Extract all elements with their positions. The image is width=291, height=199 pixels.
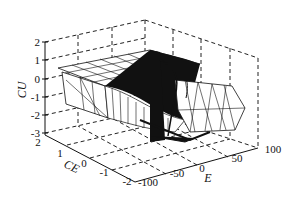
svg-text:1: 1 bbox=[35, 54, 41, 66]
surface-wireframe bbox=[58, 50, 245, 142]
z-axis-label: CU bbox=[15, 80, 29, 98]
svg-text:-2: -2 bbox=[31, 109, 40, 121]
x-axis-label: E bbox=[203, 171, 212, 185]
svg-text:50: 50 bbox=[232, 152, 244, 164]
svg-text:-50: -50 bbox=[170, 167, 185, 179]
svg-text:1: 1 bbox=[57, 147, 63, 159]
y-axis-label: CE bbox=[62, 157, 82, 176]
svg-text:2: 2 bbox=[35, 136, 41, 148]
svg-text:100: 100 bbox=[265, 143, 282, 155]
svg-text:0: 0 bbox=[81, 157, 87, 169]
svg-text:0: 0 bbox=[35, 73, 41, 85]
svg-text:2: 2 bbox=[35, 36, 41, 48]
svg-text:-100: -100 bbox=[138, 176, 159, 188]
svg-text:-1: -1 bbox=[99, 166, 108, 178]
surface-plot: 2 1 0 -1 -2 -3 CU 2 1 0 -1 -2 CE -100 -5… bbox=[0, 0, 291, 199]
svg-text:-1: -1 bbox=[31, 91, 40, 103]
y-tick-labels: 2 1 0 -1 -2 bbox=[35, 136, 131, 187]
z-tick-labels: 2 1 0 -1 -2 -3 bbox=[31, 36, 41, 139]
svg-text:-2: -2 bbox=[122, 175, 131, 187]
